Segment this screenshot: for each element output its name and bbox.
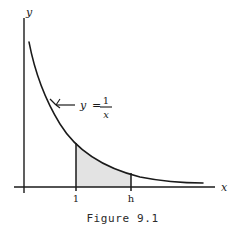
hyperbola-curve xyxy=(29,42,203,183)
fraction-denominator-label: x xyxy=(103,109,109,120)
equation-lhs-label: y xyxy=(79,99,87,112)
figure-container: y = 1 x y x 1 h Figure 9.1 xyxy=(0,0,245,246)
x-tick-label-1: 1 xyxy=(73,193,79,204)
figure-caption: Figure 9.1 xyxy=(0,212,245,225)
fraction-numerator-label: 1 xyxy=(103,95,109,106)
function-plot: y = 1 x y x 1 h xyxy=(0,0,245,246)
equation-operator-label: = xyxy=(92,99,101,112)
x-tick-label-h: h xyxy=(128,193,135,204)
shaded-area-region xyxy=(76,143,131,187)
y-axis-label: y xyxy=(25,6,33,19)
annotation-leader-arrow-icon xyxy=(50,99,75,108)
x-axis-label: x xyxy=(221,181,228,194)
